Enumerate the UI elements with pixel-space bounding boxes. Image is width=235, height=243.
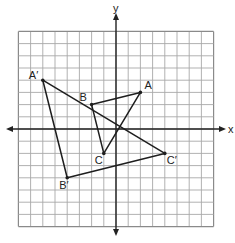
y-axis-arrow-down-icon	[113, 229, 119, 236]
triangle-abc-image: A′B′C′	[29, 69, 177, 191]
vertex-point	[90, 103, 94, 107]
x-axis-label: x	[228, 123, 234, 135]
axes: x y	[6, 2, 234, 236]
triangles: ABCA′B′C′	[29, 69, 177, 191]
vertex-label: B	[80, 91, 87, 103]
x-axis-arrow-left-icon	[6, 126, 13, 132]
vertex-label: C	[95, 154, 103, 166]
vertex-label: A	[144, 79, 152, 91]
x-axis-arrow-right-icon	[219, 126, 226, 132]
y-axis-arrow-up-icon	[113, 13, 119, 20]
vertex-label: C′	[167, 154, 177, 166]
vertex-label: A′	[29, 69, 38, 81]
vertex-point	[139, 91, 143, 95]
y-axis-label: y	[113, 2, 119, 14]
coordinate-plane-figure: x y ABCA′B′C′	[0, 0, 235, 243]
vertex-label: B′	[59, 179, 68, 191]
vertex-point	[41, 78, 45, 82]
coordinate-plane: x y ABCA′B′C′	[0, 0, 235, 243]
